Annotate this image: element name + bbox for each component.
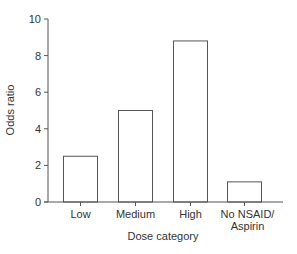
x-tick-label: High xyxy=(179,208,202,220)
bar xyxy=(228,182,262,202)
y-tick-label: 10 xyxy=(29,13,41,25)
bar xyxy=(64,156,98,202)
y-tick-label: 2 xyxy=(35,159,41,171)
bar xyxy=(174,41,208,202)
bar xyxy=(119,111,153,203)
bars-group xyxy=(64,41,262,202)
y-tick-label: 4 xyxy=(35,123,41,135)
x-tick-label: No NSAID/ xyxy=(221,208,276,220)
y-tick-label: 0 xyxy=(35,196,41,208)
x-tick-label: Aspirin xyxy=(231,220,265,232)
bar-chart: 0246810LowMediumHighNo NSAID/Aspirin Odd… xyxy=(0,0,297,254)
x-axis-title: Dose category xyxy=(128,230,199,242)
y-tick-label: 8 xyxy=(35,50,41,62)
x-tick-label: Medium xyxy=(116,208,155,220)
y-axis-title: Odds ratio xyxy=(4,85,16,136)
y-tick-label: 6 xyxy=(35,86,41,98)
x-tick-label: Low xyxy=(70,208,90,220)
